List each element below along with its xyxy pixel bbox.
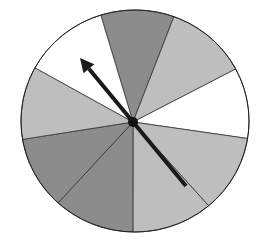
spinner (0, 0, 264, 243)
spinner-hub (128, 117, 138, 127)
